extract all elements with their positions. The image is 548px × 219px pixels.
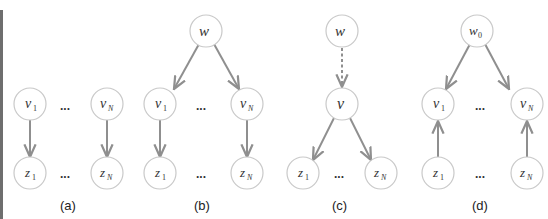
svg-text:1: 1 [33,104,37,113]
node-w: w [190,15,222,47]
svg-text:N: N [247,104,254,113]
ellipsis-z: ... [475,167,485,181]
ellipsis-v: ... [60,99,70,113]
left-border [0,10,3,219]
node-zN: z N [365,157,397,189]
svg-text:1: 1 [440,173,444,182]
panel-label-b: (b) [194,198,210,213]
edge-w0-vN [485,44,509,89]
svg-text:v: v [155,96,162,111]
ellipsis-v: ... [475,99,485,113]
figure-canvas: v 1 v N z 1 z N ... ... (a) [0,0,548,219]
svg-text:v: v [25,96,32,111]
node-w0: w 0 [461,15,493,47]
svg-text:z: z [432,165,438,180]
edge-w0-v1 [446,44,470,89]
svg-text:v: v [100,96,107,111]
node-vN: v N [511,88,543,120]
svg-text:0: 0 [478,31,482,40]
node-z1: z 1 [422,157,454,189]
panel-label-c: (c) [332,198,347,213]
svg-text:v: v [520,96,527,111]
edge-v-zN [350,118,371,160]
node-w: w [326,15,358,47]
panel-label-d: (d) [472,198,488,213]
svg-text:w: w [335,23,345,39]
svg-text:N: N [107,104,114,113]
node-vN: v N [231,88,263,120]
svg-text:z: z [373,165,379,180]
node-v1: v 1 [14,88,46,120]
svg-text:v: v [337,95,345,112]
panel-label-a: (a) [60,198,76,213]
edge-w-vN [214,44,239,89]
node-z1: z 1 [287,157,319,189]
svg-text:1: 1 [441,104,445,113]
svg-text:1: 1 [32,173,36,182]
panel-d: w 0 v 1 v N z 1 z N .. [422,15,543,213]
panel-b: w v 1 v N z 1 z N ... .. [144,15,263,213]
svg-text:w: w [199,23,209,39]
svg-text:z: z [154,165,160,180]
edge-v-z1 [313,118,334,160]
node-z1: z 1 [144,157,176,189]
svg-text:N: N [526,173,533,182]
node-zN: z N [91,157,123,189]
svg-text:z: z [519,165,525,180]
ellipsis-z: ... [196,167,206,181]
node-v1: v 1 [422,88,454,120]
graphical-models-figure: v 1 v N z 1 z N ... ... (a) [0,0,548,219]
panel-a: v 1 v N z 1 z N ... ... (a) [14,88,123,213]
svg-text:z: z [297,165,303,180]
svg-text:N: N [106,173,113,182]
node-zN: z N [231,157,263,189]
svg-text:1: 1 [162,173,166,182]
svg-text:N: N [380,173,387,182]
panel-c: w v z 1 z N ... (c) [287,15,397,213]
svg-text:N: N [246,173,253,182]
svg-text:z: z [99,165,105,180]
svg-text:N: N [527,104,534,113]
svg-text:z: z [239,165,245,180]
edge-w-v1 [174,44,199,89]
svg-text:z: z [24,165,30,180]
ellipsis-v: ... [196,99,206,113]
node-zN: z N [511,157,543,189]
ellipsis-z: ... [334,167,344,181]
node-vN: v N [91,88,123,120]
node-v: v [326,88,358,120]
ellipsis-z: ... [60,167,70,181]
svg-text:v: v [240,96,247,111]
svg-text:w: w [469,23,478,38]
node-v1: v 1 [144,88,176,120]
node-z1: z 1 [14,157,46,189]
svg-text:v: v [433,96,440,111]
svg-text:1: 1 [305,173,309,182]
svg-text:1: 1 [163,104,167,113]
